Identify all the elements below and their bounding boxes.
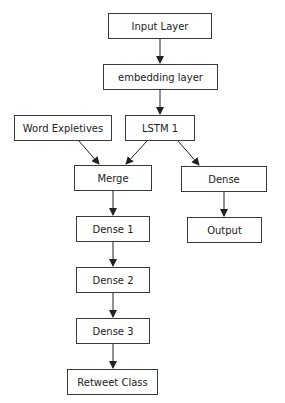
edge-lstm1-to-merge	[126, 141, 147, 164]
node-label: Word Expletives	[23, 123, 103, 134]
node-dense1: Dense 1	[76, 216, 150, 242]
node-dense2: Dense 2	[76, 267, 150, 293]
node-label: Input Layer	[132, 21, 189, 32]
edge-word-expletives-to-merge	[79, 141, 99, 164]
edge-lstm1-to-dense	[178, 141, 199, 165]
node-merge: Merge	[74, 165, 152, 191]
neural-network-diagram: Input Layer embedding layer Word Expleti…	[0, 0, 285, 403]
node-input-layer: Input Layer	[108, 13, 212, 39]
node-label: Dense 1	[92, 224, 133, 235]
node-label: LSTM 1	[142, 123, 178, 134]
node-label: Output	[207, 225, 242, 236]
node-dense3: Dense 3	[76, 318, 150, 344]
node-retweet-class: Retweet Class	[67, 369, 158, 395]
node-label: Dense	[208, 174, 240, 185]
node-label: Dense 3	[92, 326, 133, 337]
node-output: Output	[187, 217, 262, 243]
node-lstm1: LSTM 1	[125, 115, 195, 141]
node-dense: Dense	[181, 166, 267, 192]
node-word-expletives: Word Expletives	[14, 115, 112, 141]
node-label: embedding layer	[118, 72, 203, 83]
node-label: Retweet Class	[77, 377, 147, 388]
node-label: Merge	[97, 173, 128, 184]
node-embedding-layer: embedding layer	[103, 64, 218, 90]
node-label: Dense 2	[92, 275, 133, 286]
